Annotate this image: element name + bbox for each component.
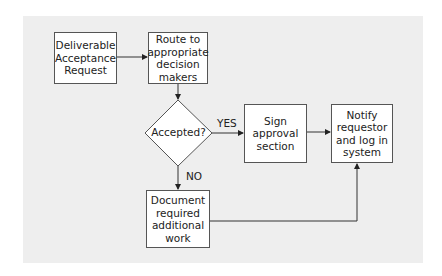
node-notify-requestor: Notify requestor and log in system — [331, 104, 393, 163]
node-route-to-decision-makers: Route to appropriate decision makers — [148, 32, 208, 84]
edge-label-yes: YES — [217, 117, 237, 129]
node-document-additional-work: Document required additional work — [146, 190, 210, 248]
node-label: Accepted? — [151, 126, 205, 138]
node-label: Route to appropriate decision makers — [147, 33, 208, 83]
node-label: Sign approval section — [253, 115, 299, 153]
node-label: Document required additional work — [151, 194, 205, 244]
node-deliverable-acceptance-request: Deliverable Acceptance Request — [54, 32, 117, 84]
edge-label-no: NO — [186, 170, 202, 182]
node-label: Deliverable Acceptance Request — [55, 39, 116, 77]
node-sign-approval-section: Sign approval section — [244, 104, 307, 163]
arrow-document-to-notify — [210, 164, 357, 221]
node-accepted-decision: Accepted? — [145, 126, 212, 138]
node-label: Notify requestor and log in system — [336, 109, 388, 159]
